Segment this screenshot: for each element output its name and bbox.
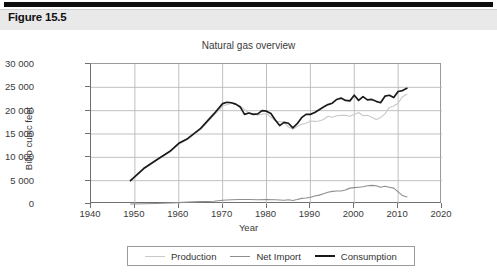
series-line-production [130, 94, 406, 180]
series-line-consumption [130, 88, 406, 180]
x-axis-tick-label: 1980 [255, 208, 276, 219]
x-axis-tick-label: 1940 [79, 208, 100, 219]
legend-item-production[interactable]: Production [145, 251, 216, 262]
legend-item-net-import[interactable]: Net Import [230, 251, 300, 262]
figure-label: Figure 15.5 [8, 11, 67, 23]
x-axis-tick-label: 1970 [211, 208, 232, 219]
plot-svg [90, 63, 443, 205]
banner-band [0, 9, 497, 31]
plot-area [90, 63, 441, 203]
legend-item-consumption[interactable]: Consumption [315, 251, 397, 262]
legend-label: Consumption [341, 251, 397, 262]
legend-swatch-consumption [315, 255, 335, 257]
legend-swatch-production [145, 256, 165, 257]
x-axis-tick-label: 2000 [343, 208, 364, 219]
banner-rule [4, 2, 493, 7]
series-line-net-import [130, 185, 406, 204]
x-axis-tick-label: 2020 [430, 208, 451, 219]
x-axis-tick-label: 2010 [387, 208, 408, 219]
x-axis-tick-label: 1950 [123, 208, 144, 219]
chart-legend: ProductionNet ImportConsumption [127, 246, 415, 266]
legend-label: Production [171, 251, 216, 262]
legend-label: Net Import [256, 251, 300, 262]
x-axis-tick-label: 1960 [167, 208, 188, 219]
x-axis-tick-label: 1990 [299, 208, 320, 219]
x-axis-title: Year [0, 222, 497, 233]
chart-container: Natural gas overview Billio cubic feet 0… [0, 30, 497, 280]
legend-swatch-net-import [230, 256, 250, 257]
figure-banner: Figure 15.5 [0, 0, 497, 30]
